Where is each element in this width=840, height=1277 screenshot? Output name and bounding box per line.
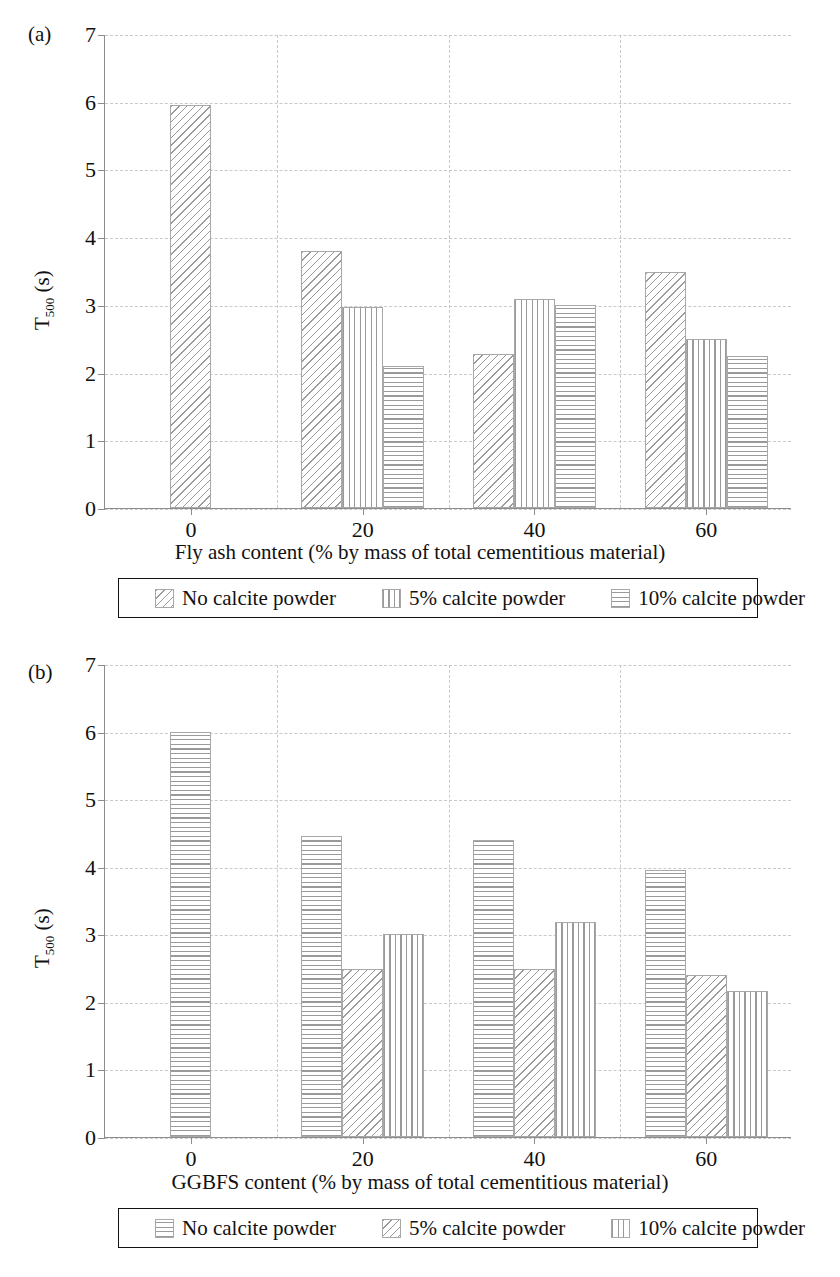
bar-20-10-calcite-powder <box>383 934 424 1137</box>
bar-20-no-calcite-powder <box>301 251 342 508</box>
legend-swatch-vertical <box>382 589 401 608</box>
x-tick-label-60: 60 <box>695 1148 717 1170</box>
bar-60-no-calcite-powder <box>645 272 686 508</box>
figure-root: (a) T500 (s) 012345670204060 Fly ash con… <box>0 0 840 1277</box>
x-tick-label-40: 40 <box>523 1148 545 1170</box>
x-tick-label-20: 20 <box>352 1148 374 1170</box>
panel-label-a: (a) <box>28 22 51 47</box>
x-tick-mark <box>363 1137 364 1144</box>
plot-area-a: 012345670204060 <box>104 35 791 509</box>
bar-60-10-calcite-powder <box>727 991 768 1137</box>
y-tick-mark <box>98 665 105 666</box>
x-gridline <box>620 35 621 508</box>
y-gridline <box>105 1138 791 1139</box>
bar-40-10-calcite-powder <box>555 922 596 1137</box>
y-tick-label-7: 7 <box>85 654 96 676</box>
y-axis-label-unit-a: (s) <box>30 270 54 297</box>
legend-label: 5% calcite powder <box>409 586 565 611</box>
x-tick-mark <box>534 508 535 515</box>
x-tick-label-0: 0 <box>185 519 196 541</box>
legend-label: 10% calcite powder <box>638 586 805 611</box>
bar-20-5-calcite-powder <box>342 969 383 1137</box>
y-tick-label-1: 1 <box>85 1059 96 1081</box>
y-tick-mark <box>98 733 105 734</box>
y-tick-mark <box>98 1070 105 1071</box>
panel-label-b: (b) <box>28 660 53 685</box>
y-axis-label-unit-b: (s) <box>30 908 54 935</box>
x-tick-label-20: 20 <box>352 519 374 541</box>
y-tick-mark <box>98 103 105 104</box>
legend-item-2: 5% calcite powder <box>382 586 565 611</box>
y-tick-label-4: 4 <box>85 857 96 879</box>
y-tick-mark <box>98 509 105 510</box>
y-tick-mark <box>98 1138 105 1139</box>
x-tick-mark <box>363 508 364 515</box>
chart-panel-b: (b) T500 (s) 012345670204060 GGBFS conte… <box>0 638 840 1277</box>
legend-swatch-vertical <box>611 1219 630 1238</box>
x-tick-label-0: 0 <box>185 1148 196 1170</box>
legend-item-2: 5% calcite powder <box>382 1216 565 1241</box>
y-axis-label-base-a: T <box>30 317 54 330</box>
legend-item-1: No calcite powder <box>155 1216 336 1241</box>
x-gridline <box>449 35 450 508</box>
y-tick-mark <box>98 306 105 307</box>
x-tick-mark <box>191 508 192 515</box>
legend-b: No calcite powder5% calcite powder10% ca… <box>118 1208 758 1248</box>
x-gridline <box>620 665 621 1137</box>
y-axis-label-sub-a: 500 <box>42 298 57 318</box>
y-tick-label-6: 6 <box>85 92 96 114</box>
x-tick-mark <box>706 508 707 515</box>
legend-a: No calcite powder5% calcite powder10% ca… <box>118 578 758 618</box>
y-tick-mark <box>98 868 105 869</box>
bar-60-5-calcite-powder <box>686 975 727 1137</box>
x-gridline <box>277 665 278 1137</box>
x-gridline <box>277 35 278 508</box>
x-tick-mark <box>534 1137 535 1144</box>
y-tick-label-3: 3 <box>85 295 96 317</box>
bar-20-no-calcite-powder <box>301 836 342 1137</box>
y-tick-mark <box>98 170 105 171</box>
y-tick-mark <box>98 374 105 375</box>
bar-60-no-calcite-powder <box>645 870 686 1137</box>
bar-40-no-calcite-powder <box>473 354 514 508</box>
y-axis-label-a: T500 (s) <box>30 270 58 330</box>
y-axis-label-base-b: T <box>30 955 54 968</box>
y-tick-label-6: 6 <box>85 722 96 744</box>
bar-0-no-calcite-powder <box>170 105 211 508</box>
x-tick-mark <box>706 1137 707 1144</box>
y-tick-label-7: 7 <box>85 24 96 46</box>
y-tick-label-2: 2 <box>85 992 96 1014</box>
y-tick-label-0: 0 <box>85 498 96 520</box>
legend-label: 5% calcite powder <box>409 1216 565 1241</box>
x-tick-label-60: 60 <box>695 519 717 541</box>
chart-panel-a: (a) T500 (s) 012345670204060 Fly ash con… <box>0 0 840 638</box>
bar-20-10-calcite-powder <box>383 366 424 508</box>
bar-20-5-calcite-powder <box>342 307 383 508</box>
bar-40-5-calcite-powder <box>514 299 555 508</box>
y-tick-label-2: 2 <box>85 363 96 385</box>
y-tick-label-5: 5 <box>85 159 96 181</box>
legend-item-3: 10% calcite powder <box>611 1216 805 1241</box>
y-tick-label-4: 4 <box>85 227 96 249</box>
bar-40-no-calcite-powder <box>473 840 514 1137</box>
bar-60-10-calcite-powder <box>727 356 768 508</box>
x-tick-mark <box>191 1137 192 1144</box>
legend-swatch-horizontal <box>611 589 630 608</box>
bar-40-5-calcite-powder <box>514 969 555 1137</box>
legend-swatch-horizontal <box>155 1219 174 1238</box>
x-tick-label-40: 40 <box>523 519 545 541</box>
y-tick-mark <box>98 935 105 936</box>
legend-item-1: No calcite powder <box>155 586 336 611</box>
legend-label: No calcite powder <box>182 1216 336 1241</box>
legend-item-3: 10% calcite powder <box>611 586 805 611</box>
y-tick-label-5: 5 <box>85 789 96 811</box>
bar-60-5-calcite-powder <box>686 339 727 508</box>
y-tick-mark <box>98 441 105 442</box>
x-axis-label-a: Fly ash content (% by mass of total ceme… <box>0 540 840 565</box>
plot-area-b: 012345670204060 <box>104 665 791 1138</box>
y-tick-mark <box>98 35 105 36</box>
y-tick-mark <box>98 238 105 239</box>
y-tick-label-3: 3 <box>85 924 96 946</box>
legend-swatch-diagonal <box>155 589 174 608</box>
y-axis-label-sub-b: 500 <box>42 936 57 956</box>
